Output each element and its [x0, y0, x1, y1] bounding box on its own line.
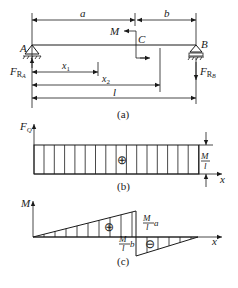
- moment-max-label: M l a: [142, 213, 159, 232]
- shear-value-denominator: l: [204, 161, 207, 171]
- figure-a-beam-loading: a b M C A FRA: [9, 7, 216, 121]
- figure-c-moment-diagram: M x ⊕ ⊖ M l a M l b (c): [20, 197, 222, 268]
- reaction-b-label: FRB: [199, 65, 216, 79]
- support-b-label: B: [201, 38, 208, 50]
- moment-hatching: [44, 212, 191, 253]
- svg-text:a: a: [154, 218, 159, 228]
- figure-b-shear-diagram: FQ x ⊕ M l (b): [19, 120, 225, 193]
- svg-text:l: l: [122, 243, 125, 253]
- dimension-b-label: b: [164, 7, 170, 19]
- moment-y-axis-label: M: [20, 197, 31, 209]
- moment-label: M: [109, 25, 120, 37]
- svg-text:b: b: [130, 239, 135, 249]
- caption-b: (b): [117, 180, 130, 193]
- x1-label: x1: [61, 60, 70, 73]
- length-label: l: [113, 86, 116, 98]
- reaction-a-label: FRA: [9, 65, 26, 79]
- caption-c: (c): [117, 255, 130, 268]
- shear-value-numerator: M: [200, 151, 209, 161]
- x2-label: x2: [101, 73, 110, 86]
- moment-negative-sign: ⊖: [145, 237, 155, 251]
- moment-x-axis-label: x: [211, 235, 217, 247]
- svg-text:l: l: [146, 222, 149, 232]
- shear-x-axis-label: x: [219, 173, 225, 185]
- shear-positive-sign: ⊕: [117, 153, 127, 167]
- shear-y-axis-label: FQ: [19, 120, 32, 134]
- caption-a: (a): [117, 108, 130, 121]
- moment-positive-sign: ⊕: [104, 220, 114, 234]
- dimension-a-label: a: [80, 7, 86, 19]
- beam-diagram: a b M C A FRA: [0, 0, 238, 288]
- point-c-label: C: [138, 33, 146, 45]
- support-a-label: A: [19, 42, 27, 54]
